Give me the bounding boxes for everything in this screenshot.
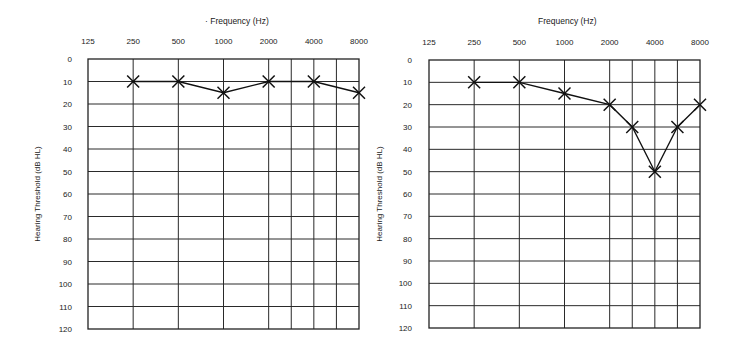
y-tick-label: 80 bbox=[403, 235, 412, 244]
y-tick-label: 30 bbox=[63, 123, 72, 132]
y-tick-label: 60 bbox=[63, 190, 72, 199]
x-tick-label: 500 bbox=[172, 37, 186, 46]
y-tick-label: 120 bbox=[59, 325, 73, 334]
audiogram-left: · Frequency (Hz)Hearing Threshold (dB HL… bbox=[0, 0, 743, 352]
right-audiogram: Frequency (Hz)Hearing Threshold (dB HL)1… bbox=[375, 16, 709, 333]
x-tick-label: 4000 bbox=[646, 38, 664, 47]
x-tick-label: 250 bbox=[467, 38, 481, 47]
y-tick-label: 30 bbox=[403, 123, 412, 132]
x-tick-label: 2000 bbox=[260, 37, 278, 46]
y-tick-label: 70 bbox=[63, 213, 72, 222]
x-tick-label: 4000 bbox=[305, 37, 323, 46]
chart-title: Frequency (Hz) bbox=[538, 16, 597, 26]
x-tick-label: 8000 bbox=[691, 38, 709, 47]
x-tick-label: 250 bbox=[126, 37, 140, 46]
y-tick-label: 50 bbox=[403, 168, 412, 177]
y-tick-label: 90 bbox=[63, 258, 72, 267]
x-tick-label: 1000 bbox=[556, 38, 574, 47]
x-tick-label: 8000 bbox=[350, 37, 368, 46]
y-tick-label: 0 bbox=[68, 55, 73, 64]
y-tick-label: 10 bbox=[403, 78, 412, 87]
y-tick-label: 70 bbox=[403, 212, 412, 221]
y-tick-label: 100 bbox=[399, 279, 413, 288]
y-tick-label: 110 bbox=[59, 303, 72, 312]
y-axis-label: Hearing Threshold (dB HL) bbox=[33, 146, 42, 242]
x-tick-label: 1000 bbox=[215, 37, 233, 46]
y-axis-label: Hearing Threshold (dB HL) bbox=[375, 146, 384, 242]
y-tick-label: 10 bbox=[63, 78, 72, 87]
x-tick-label: 2000 bbox=[601, 38, 619, 47]
y-tick-label: 20 bbox=[403, 101, 412, 110]
y-tick-label: 50 bbox=[63, 168, 72, 177]
y-tick-label: 90 bbox=[403, 257, 412, 266]
y-tick-label: 20 bbox=[63, 100, 72, 109]
y-tick-label: 0 bbox=[408, 56, 413, 65]
x-tick-label: 125 bbox=[422, 38, 436, 47]
y-tick-label: 120 bbox=[399, 324, 413, 333]
y-tick-label: 60 bbox=[403, 190, 412, 199]
x-tick-label: 500 bbox=[513, 38, 527, 47]
threshold-line bbox=[133, 82, 359, 93]
y-tick-label: 100 bbox=[59, 280, 73, 289]
chart-title: · Frequency (Hz) bbox=[205, 16, 269, 26]
x-tick-label: 125 bbox=[81, 37, 95, 46]
y-tick-label: 40 bbox=[403, 145, 412, 154]
y-tick-label: 80 bbox=[63, 235, 72, 244]
y-tick-label: 40 bbox=[63, 145, 72, 154]
y-tick-label: 110 bbox=[399, 302, 412, 311]
left-audiogram: · Frequency (Hz)Hearing Threshold (dB HL… bbox=[33, 16, 368, 334]
